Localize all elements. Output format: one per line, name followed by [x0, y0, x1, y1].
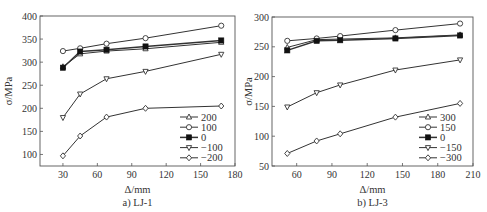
x-tick-label: 90 [327, 169, 337, 180]
circle-marker [285, 38, 290, 43]
y-axis-label: σ/MPa [3, 76, 14, 105]
diamond-marker [104, 114, 109, 120]
series-0 [60, 38, 223, 70]
chart-panel-1: 100150200250300350400306090120150180σ/MP… [3, 11, 243, 210]
legend: 3001500−150−300 [419, 112, 462, 164]
circle-marker [393, 28, 398, 33]
legend-item: −300 [419, 152, 462, 163]
series-0 [285, 33, 463, 53]
series-line [287, 103, 460, 153]
legend-circle-icon [186, 125, 191, 130]
y-tick-label: 250 [22, 80, 37, 91]
x-tick-label: 210 [466, 169, 481, 180]
x-tick-label: 60 [292, 169, 302, 180]
series-neg200 [60, 103, 223, 159]
legend-circle-icon [425, 125, 430, 130]
x-tick-label: 120 [360, 169, 375, 180]
legend: 2001000−100−200 [180, 112, 223, 164]
y-tick-label: 250 [254, 41, 269, 52]
y-tick-label: 300 [254, 12, 269, 23]
legend-item: 100 [180, 122, 217, 133]
y-tick-label: 100 [22, 149, 37, 160]
legend-square-filled-icon [186, 135, 191, 140]
circle-marker [104, 41, 109, 46]
square-filled-marker [78, 49, 83, 54]
y-tick-label: 150 [254, 101, 269, 112]
circle-marker [143, 36, 148, 41]
legend-diamond-icon [425, 155, 430, 161]
diamond-marker [457, 100, 462, 106]
x-axis-label: Δ/mm [124, 184, 150, 195]
series-neg150 [285, 58, 463, 110]
legend-item: −200 [180, 152, 223, 163]
y-axis-label: σ/MPa [243, 77, 254, 106]
square-filled-marker [314, 38, 319, 43]
diamond-marker [393, 114, 398, 120]
series-neg100 [60, 52, 223, 120]
x-tick-label: 60 [92, 169, 102, 180]
y-tick-label: 50 [259, 161, 269, 172]
x-tick-label: 120 [159, 169, 174, 180]
legend-diamond-icon [186, 155, 191, 161]
square-filled-marker [104, 47, 109, 52]
series-line [63, 106, 221, 156]
x-tick-label: 180 [430, 169, 445, 180]
diamond-marker [314, 138, 319, 144]
series-line [287, 60, 460, 107]
legend-label: −200 [201, 152, 223, 163]
series-line [63, 54, 221, 117]
legend-label: −300 [440, 152, 462, 163]
square-filled-marker [393, 36, 398, 41]
y-tick-label: 300 [22, 57, 37, 68]
circle-marker [60, 48, 65, 53]
chart-panel-2: 501001502002503006090120150180210σ/MPaΔ/… [243, 12, 481, 210]
series-300 [285, 32, 463, 50]
square-filled-marker [219, 38, 224, 43]
chart-caption: b) LJ-3 [357, 197, 388, 209]
diamond-marker [219, 103, 224, 109]
circle-marker [457, 21, 462, 26]
x-tick-label: 30 [58, 169, 68, 180]
series-line [287, 35, 460, 50]
legend-item: 150 [419, 122, 456, 133]
circle-marker [219, 23, 224, 28]
x-tick-label: 150 [193, 169, 208, 180]
diamond-marker [143, 105, 148, 111]
legend-square-filled-icon [425, 135, 430, 140]
square-filled-marker [60, 65, 65, 70]
triangle-down-marker [285, 105, 290, 110]
x-axis-label: Δ/mm [359, 184, 385, 195]
y-tick-label: 200 [254, 71, 269, 82]
y-tick-label: 200 [22, 103, 37, 114]
x-tick-label: 180 [228, 169, 243, 180]
x-tick-label: 90 [127, 169, 137, 180]
figure: 100150200250300350400306090120150180σ/MP… [0, 0, 487, 212]
y-tick-label: 100 [254, 131, 269, 142]
chart-canvas: 100150200250300350400306090120150180σ/MP… [0, 0, 487, 212]
diamond-marker [285, 150, 290, 156]
series-line [63, 42, 221, 66]
y-tick-label: 350 [22, 34, 37, 45]
y-tick-label: 400 [22, 11, 37, 22]
square-filled-marker [338, 38, 343, 43]
triangle-down-marker [60, 116, 65, 121]
square-filled-marker [457, 33, 462, 38]
y-tick-label: 150 [22, 126, 37, 137]
series-200 [60, 39, 223, 68]
series-150 [285, 21, 463, 43]
x-tick-label: 150 [395, 169, 410, 180]
square-filled-marker [285, 48, 290, 53]
chart-caption: a) LJ-1 [122, 197, 152, 209]
diamond-marker [338, 131, 343, 137]
square-filled-marker [143, 44, 148, 49]
